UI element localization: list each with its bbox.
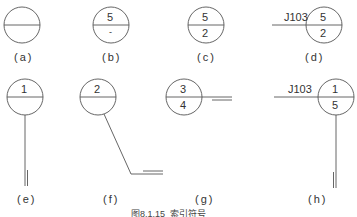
figure-caption: 图8.1.15 索引符号: [131, 207, 206, 217]
symbol-d-bottom: 2: [320, 27, 326, 39]
symbol-e-top: 1: [21, 83, 27, 95]
symbol-c-top: 5: [202, 11, 208, 23]
symbol-d-code: J103: [284, 11, 308, 23]
symbol-g-top: 3: [180, 83, 186, 95]
label-e: (e): [17, 193, 36, 205]
label-g: (g): [195, 193, 214, 205]
label-h: (h): [308, 193, 327, 205]
label-b: (b): [102, 51, 121, 63]
symbol-f-top: 2: [94, 83, 100, 95]
symbol-d-top: 5: [320, 11, 326, 23]
label-a: (a): [14, 51, 33, 63]
label-f: (f): [103, 193, 119, 205]
symbol-h-bottom: 5: [332, 99, 338, 111]
symbol-h-top: 1: [332, 83, 338, 95]
label-c: (c): [197, 51, 216, 63]
symbol-b-bottom: -: [109, 27, 112, 37]
label-d: (d): [305, 51, 324, 63]
symbol-c-bottom: 2: [202, 27, 208, 39]
symbol-g-bottom: 4: [180, 99, 186, 111]
symbol-b-top: 5: [107, 11, 113, 23]
symbol-h-code: J103: [288, 83, 312, 95]
